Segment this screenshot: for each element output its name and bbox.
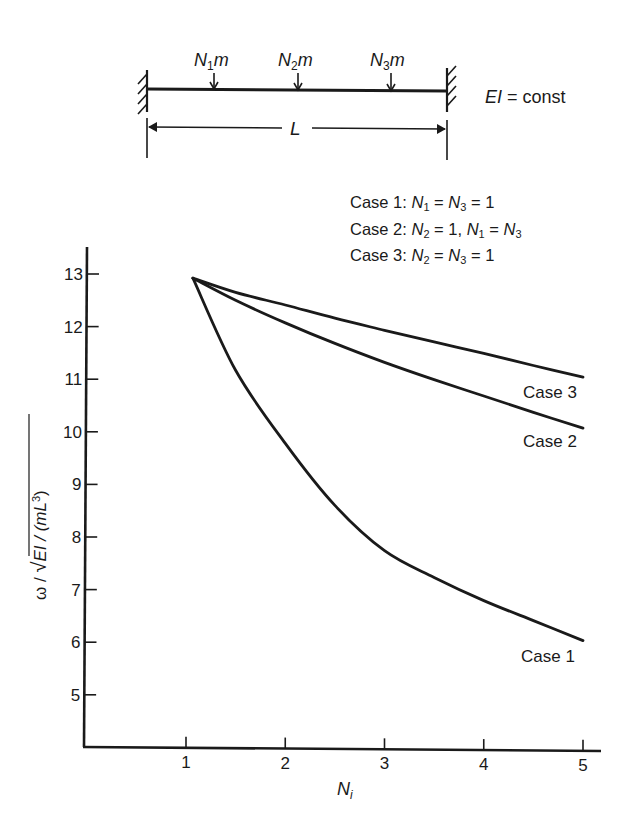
legend-case-1: Case 1: N1 = N3 = 1 <box>350 193 494 213</box>
dim-arrow-left-icon <box>148 122 157 132</box>
mass-label-3: N3m <box>370 50 405 73</box>
axes: 5678910111213 12345 Ni ω / √EI / (mL3) <box>28 247 601 802</box>
stiffness-label: EI = const <box>485 87 566 107</box>
beam-diagram: N1m N2m N3m L EI = const <box>138 50 566 160</box>
x-axis <box>83 747 601 751</box>
x-tick-label: 4 <box>479 755 488 774</box>
y-tick-label: 10 <box>63 423 82 442</box>
y-tick-label: 8 <box>72 528 81 547</box>
case-2-label: Case 2 <box>523 432 577 451</box>
x-axis-label: Ni <box>337 779 353 802</box>
x-tick-label: 5 <box>578 756 587 775</box>
legend-case-2: Case 2: N2 = 1, N1 = N3 <box>350 220 522 240</box>
y-tick-label: 11 <box>65 370 83 389</box>
x-ticks: 12345 <box>181 737 587 775</box>
dim-arrow-right-icon <box>437 124 446 134</box>
y-tick-label: 9 <box>72 475 81 494</box>
right-support-hatch-icon <box>447 66 456 106</box>
case-3-label: Case 3 <box>523 383 577 402</box>
y-tick-label: 5 <box>71 686 80 705</box>
y-axis-label: ω / √EI / (mL3) <box>28 414 50 600</box>
legend-case-3: Case 3: N2 = N3 = 1 <box>350 246 494 266</box>
y-ticks: 5678910111213 <box>63 265 99 705</box>
mass-label-2: N2m <box>278 50 313 73</box>
y-tick-label: 12 <box>64 318 83 337</box>
case-1-label: Case 1 <box>521 647 575 666</box>
y-tick-label: 7 <box>71 581 80 600</box>
y-tick-label: 6 <box>71 633 80 652</box>
case-1-curve <box>193 278 583 640</box>
legend: Case 1: N1 = N3 = 1 Case 2: N2 = 1, N1 =… <box>350 193 522 266</box>
y-tick-label: 13 <box>64 265 83 284</box>
length-label: L <box>290 118 301 139</box>
y-axis <box>84 247 87 747</box>
mass-label-1: N1m <box>194 50 229 73</box>
x-tick-label: 2 <box>281 754 290 773</box>
left-support-hatch-icon <box>138 74 147 114</box>
case-2-curve <box>193 278 583 428</box>
chart-canvas: N1m N2m N3m L EI = const Case 1: N1 = N3… <box>0 0 632 837</box>
x-tick-label: 3 <box>380 754 389 773</box>
svg-text:ω / √EI / (mL3): ω / √EI / (mL3) <box>28 490 50 600</box>
series-lines <box>193 278 583 640</box>
x-tick-label: 1 <box>181 753 190 772</box>
